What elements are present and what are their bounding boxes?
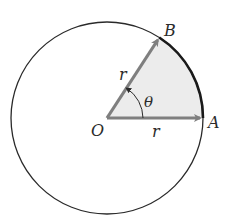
- label-r-oa: r: [152, 122, 161, 141]
- label-r-ob: r: [119, 65, 128, 84]
- sector-diagram: B A O r r θ: [0, 0, 232, 224]
- label-o: O: [91, 121, 104, 140]
- label-theta: θ: [144, 93, 153, 111]
- label-b: B: [163, 21, 176, 40]
- label-a: A: [206, 113, 220, 132]
